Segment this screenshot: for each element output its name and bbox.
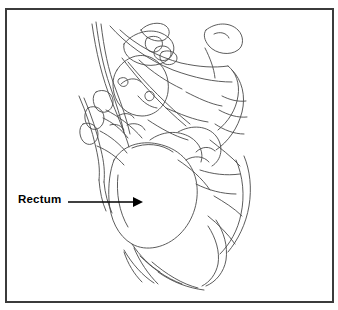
ligament-line — [178, 160, 210, 190]
rectum-leader-line — [68, 197, 143, 207]
sacral-spine-1 — [222, 96, 246, 101]
abdominal-wall-inner — [101, 24, 130, 134]
perineum-2 — [152, 262, 198, 288]
rectum-label: Rectum — [18, 193, 61, 205]
fascia-line-3 — [186, 92, 222, 106]
colon-haustra-2 — [186, 157, 209, 162]
colon-border — [200, 170, 240, 175]
rectum-wall-inner — [117, 175, 128, 227]
perineal-body — [134, 248, 158, 284]
anal-canal — [124, 250, 154, 283]
rectum-upper-fold — [132, 145, 173, 152]
ischium-inner — [202, 226, 219, 286]
anatomical-illustration — [0, 0, 338, 310]
iliac-notch — [214, 33, 229, 38]
fascia-line-2 — [166, 108, 208, 122]
vessel-line-1 — [128, 62, 190, 124]
vertebra-3 — [80, 123, 98, 144]
ilium-edge — [205, 48, 215, 78]
fold-detail-2 — [127, 124, 145, 130]
rectum-outline — [109, 143, 197, 248]
anus-line — [124, 252, 142, 282]
posterior-fold-1 — [214, 196, 242, 216]
uterus-inner-fold — [121, 79, 141, 84]
figure-container: Rectum — [0, 0, 338, 310]
small-oval-2 — [145, 91, 154, 100]
sacral-ridge — [210, 140, 240, 166]
colon-haustra-1 — [196, 147, 215, 152]
bowel-loop-5 — [160, 51, 177, 65]
bowel-loop-4 — [154, 46, 171, 61]
iliac-crest — [204, 24, 242, 53]
rectosigmoid-junction — [150, 132, 202, 162]
sacrum-body — [218, 66, 239, 130]
bowel-loop-2 — [141, 23, 169, 41]
vertebra-1 — [93, 90, 113, 112]
colon-border-2 — [196, 184, 236, 194]
gluteal-outline — [228, 156, 250, 252]
abdominal-wall-outline — [96, 22, 124, 133]
thigh-outline — [158, 272, 204, 290]
coccyx-line — [99, 180, 106, 211]
arrowhead-icon — [133, 197, 143, 207]
